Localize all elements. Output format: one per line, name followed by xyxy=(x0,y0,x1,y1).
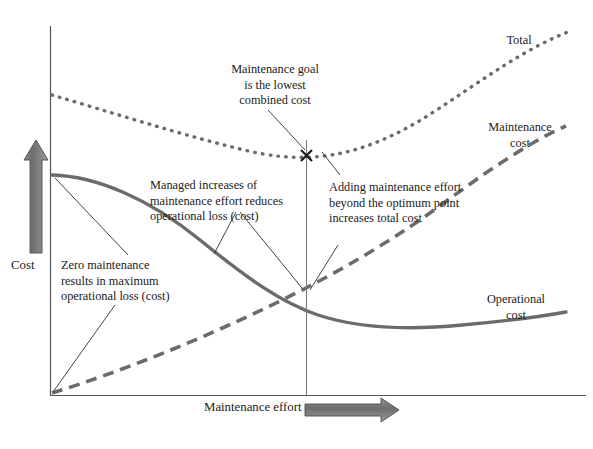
leader-goal-to-optimum xyxy=(268,110,305,150)
cost-vs-maintenance-effort-chart: Maintenance goal is the lowest combined … xyxy=(0,0,593,449)
annotation-adding-effort: Adding maintenance effort beyond the opt… xyxy=(329,180,505,227)
annotation-leader-lines xyxy=(53,110,340,392)
annotation-zero-maintenance: Zero maintenance results in maximum oper… xyxy=(61,258,221,305)
leader-zero-to-origin xyxy=(53,305,115,392)
series-label-maintenance-cost: Maintenance cost xyxy=(477,120,563,151)
annotation-managed-increases: Managed increases of maintenance effort … xyxy=(150,178,328,225)
annotation-maintenance-goal: Maintenance goal is the lowest combined … xyxy=(212,62,338,109)
series-label-operational-cost: Operational cost xyxy=(473,292,559,323)
cost-direction-arrow xyxy=(24,140,48,253)
series-label-total: Total xyxy=(489,33,549,49)
effort-direction-arrow xyxy=(305,398,399,422)
y-axis-title: Cost xyxy=(11,258,34,273)
leader-adding-to-curve-crossing xyxy=(310,245,338,290)
x-axis-title: Maintenance effort xyxy=(204,400,301,415)
